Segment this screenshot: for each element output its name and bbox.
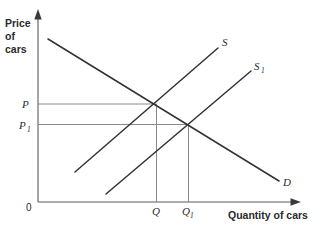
supply-demand-chart: Price of cars Quantity of cars 0 P P 1 Q… [0,0,322,235]
chart-background [0,0,322,235]
price-label-p1-base: P [18,119,26,131]
y-axis-title-line-3: cars [5,43,27,55]
supply-shifted-curve-label-base: S [254,60,260,72]
y-axis-title-line-2: of [5,30,15,42]
x-axis-title: Quantity of cars [228,209,308,221]
quantity-label-q1-base: Q [182,205,190,217]
demand-curve-label: D [282,176,291,188]
supply-shifted-curve-label-subscript: 1 [261,66,265,75]
origin-label: 0 [26,202,32,213]
supply-demand-diagram: Price of cars Quantity of cars 0 P P 1 Q… [0,0,322,235]
price-label-p: P [21,98,29,110]
quantity-label-q: Q [152,205,160,217]
quantity-label-q1-subscript: 1 [190,211,194,220]
supply-curve-label: S [222,36,228,48]
y-axis-title-line-1: Price [5,17,31,29]
price-label-p1-subscript: 1 [27,125,31,134]
